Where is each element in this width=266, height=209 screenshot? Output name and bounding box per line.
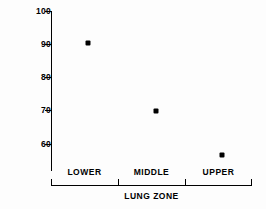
y-tick-mark-60 — [45, 144, 51, 145]
y-tick-mark-80 — [45, 77, 51, 78]
ventilation-lung-zone-chart: VENTILATION/UNIT VOLUME 100 90 80 70 60 … — [0, 0, 266, 209]
plot-area — [0, 0, 266, 209]
x-axis-title: LUNG ZONE — [51, 191, 252, 201]
data-point-lower — [86, 41, 91, 46]
x-tick-mark-end — [251, 179, 252, 186]
y-tick-mark-90 — [45, 44, 51, 45]
x-category-label-upper: UPPER — [185, 167, 252, 177]
y-axis-line — [51, 11, 52, 171]
y-tick-mark-100 — [45, 11, 51, 12]
data-point-middle — [154, 109, 159, 114]
y-tick-mark-70 — [45, 110, 51, 111]
x-category-label-lower: LOWER — [51, 167, 118, 177]
x-tick-mark-start — [51, 179, 52, 186]
x-tick-mark-lower-middle — [118, 179, 119, 186]
data-point-upper — [220, 153, 225, 158]
x-category-label-middle: MIDDLE — [118, 167, 185, 177]
x-axis-line — [51, 185, 252, 186]
x-tick-mark-middle-upper — [185, 179, 186, 186]
